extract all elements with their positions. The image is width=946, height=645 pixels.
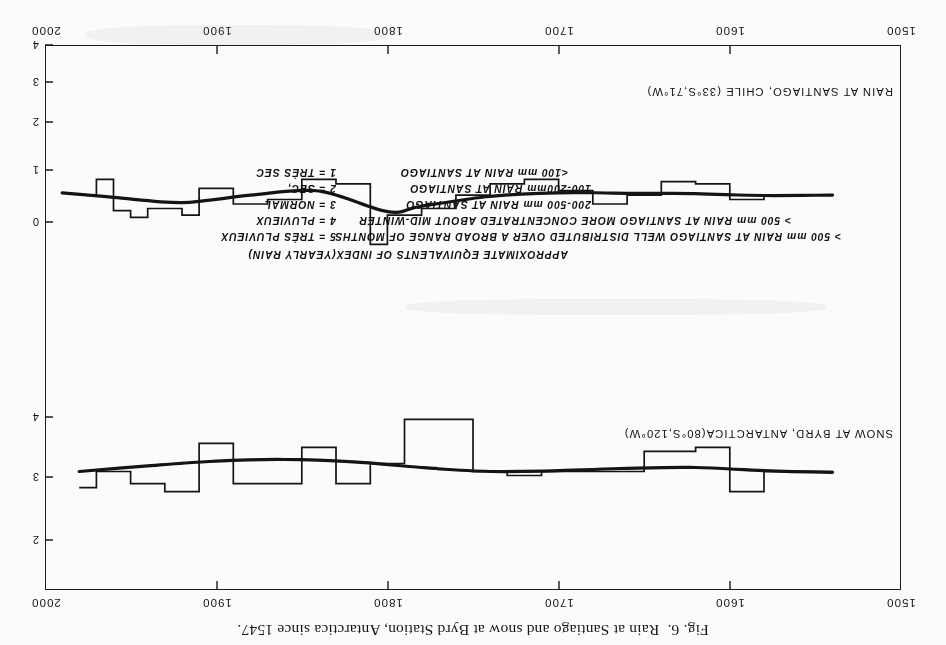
- axis-title-byrd: DECADE VALUES OF AVERAGE YEARLY ACCUMULA…: [0, 332, 33, 592]
- xtick-label-1700-top: 1700: [544, 597, 574, 609]
- xtick-label-1800-top: 1800: [373, 597, 403, 609]
- ytick-santiago-0: 0: [33, 216, 39, 228]
- xtick-label-1600-top: 1600: [715, 597, 745, 609]
- scan-smudge: [86, 25, 386, 45]
- rotated-page-content: Fig. 6. Rain at Santiago and snow at Byr…: [0, 0, 946, 645]
- xtick-label-1600-bottom: 1600: [715, 25, 745, 37]
- chart-canvas: [45, 45, 901, 590]
- ytick-byrd-4: 4: [33, 411, 39, 423]
- xtick-label-1700-bottom: 1700: [544, 25, 574, 37]
- xtick-label-1900-bottom: 1900: [202, 25, 232, 37]
- xtick-label-1900-top: 1900: [202, 597, 232, 609]
- ytick-santiago-4: 4: [33, 39, 39, 51]
- ytick-santiago-3: 3: [33, 76, 39, 88]
- santiago-step-series: [79, 179, 832, 244]
- byrd-step-series: [79, 419, 832, 491]
- x-tick-marks: [217, 45, 730, 590]
- xtick-label-1800-bottom: 1800: [373, 25, 403, 37]
- ytick-byrd-2: 2: [33, 534, 39, 546]
- axis-title-santiago: DECADE VALUES OF THE ANNUAL 1-5 INDEX AT…: [0, 40, 33, 285]
- ytick-santiago-2: 2: [33, 116, 39, 128]
- ytick-santiago-1: 1: [33, 164, 39, 176]
- figure-caption: Fig. 6. Rain at Santiago and snow at Byr…: [0, 621, 946, 639]
- ytick-byrd-3: 3: [33, 471, 39, 483]
- xtick-label-1500-bottom: 1500: [886, 25, 916, 37]
- xtick-label-2000-top: 2000: [31, 597, 61, 609]
- byrd-trend-curve: [79, 459, 832, 472]
- y-tick-marks: [45, 45, 53, 540]
- plot-area: 1500 1600 1700 1800 1900 2000 1500 1600 …: [45, 45, 901, 590]
- xtick-label-1500-top: 1500: [886, 597, 916, 609]
- xtick-label-2000-bottom: 2000: [31, 25, 61, 37]
